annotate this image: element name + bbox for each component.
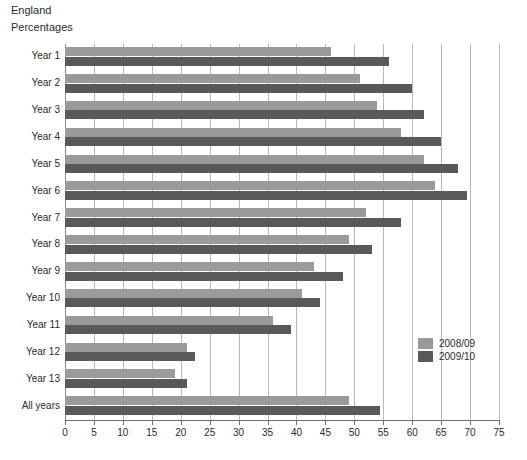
y-axis-label-year-3: Year 3 (31, 104, 60, 115)
chart-legend: 2008/092009/10 (418, 338, 506, 364)
legend-swatch-2009-10 (418, 351, 433, 362)
y-axis-label-year-1: Year 1 (31, 50, 60, 61)
x-tick-label-10: 10 (117, 427, 128, 438)
x-tick-label-25: 25 (204, 427, 215, 438)
y-axis-label-all-years: All years (22, 400, 60, 411)
y-axis-label-year-10: Year 10 (26, 292, 60, 303)
bar-year-7-2008-09 (65, 208, 366, 217)
x-tick-10 (123, 421, 124, 425)
x-tick-label-40: 40 (291, 427, 302, 438)
x-tick-0 (65, 421, 66, 425)
y-axis-label-year-13: Year 13 (26, 373, 60, 384)
x-tick-label-75: 75 (493, 427, 504, 438)
legend-label-2009-10: 2009/10 (439, 351, 475, 362)
y-axis-label-year-4: Year 4 (31, 131, 60, 142)
bar-all-years-2008-09 (65, 396, 349, 405)
x-tick-label-20: 20 (175, 427, 186, 438)
bar-year-13-2009-10 (65, 379, 187, 388)
y-axis-label-year-12: Year 12 (26, 346, 60, 357)
x-tick-35 (268, 421, 269, 425)
x-tick-25 (210, 421, 211, 425)
y-axis-label-year-8: Year 8 (31, 238, 60, 249)
chart-region-title: England (11, 4, 51, 16)
bar-year-8-2009-10 (65, 245, 372, 254)
x-tick-55 (383, 421, 384, 425)
legend-item-2008-09: 2008/09 (418, 338, 475, 349)
bar-year-9-2008-09 (65, 262, 314, 271)
x-tick-label-35: 35 (262, 427, 273, 438)
bar-year-9-2009-10 (65, 272, 343, 281)
x-tick-70 (470, 421, 471, 425)
bar-year-4-2009-10 (65, 137, 441, 146)
bar-chart: England Percentages Year 1Year 2Year 3Ye… (0, 0, 527, 460)
bar-year-4-2008-09 (65, 128, 401, 137)
x-tick-label-5: 5 (91, 427, 97, 438)
legend-swatch-2008-09 (418, 338, 433, 349)
y-axis-label-year-6: Year 6 (31, 185, 60, 196)
bar-year-3-2008-09 (65, 101, 377, 110)
bar-year-6-2008-09 (65, 181, 435, 190)
x-tick-60 (412, 421, 413, 425)
y-axis-label-year-11: Year 11 (27, 319, 60, 330)
legend-item-2009-10: 2009/10 (418, 351, 475, 362)
x-tick-label-70: 70 (465, 427, 476, 438)
x-tick-label-50: 50 (349, 427, 360, 438)
bar-year-2-2008-09 (65, 74, 360, 83)
bar-year-3-2009-10 (65, 110, 424, 119)
x-tick-label-65: 65 (436, 427, 447, 438)
bar-year-7-2009-10 (65, 218, 401, 227)
x-tick-65 (441, 421, 442, 425)
bar-year-5-2009-10 (65, 164, 458, 173)
x-tick-label-55: 55 (378, 427, 389, 438)
bar-year-6-2009-10 (65, 191, 467, 200)
x-tick-45 (325, 421, 326, 425)
x-axis-line (65, 420, 500, 421)
bar-year-8-2008-09 (65, 235, 349, 244)
bar-year-10-2008-09 (65, 289, 302, 298)
y-axis-label-year-5: Year 5 (31, 158, 60, 169)
x-tick-label-60: 60 (407, 427, 418, 438)
bar-year-13-2008-09 (65, 369, 175, 378)
x-tick-50 (354, 421, 355, 425)
y-axis-category-labels: Year 1Year 2Year 3Year 4Year 5Year 6Year… (0, 44, 60, 420)
bar-year-5-2008-09 (65, 155, 424, 164)
y-axis-label-year-9: Year 9 (31, 265, 60, 276)
bar-year-12-2009-10 (65, 352, 195, 361)
bar-year-11-2008-09 (65, 316, 273, 325)
bar-year-10-2009-10 (65, 298, 320, 307)
bar-year-1-2009-10 (65, 57, 389, 66)
x-tick-label-45: 45 (320, 427, 331, 438)
x-tick-20 (181, 421, 182, 425)
x-tick-5 (94, 421, 95, 425)
bar-all-years-2009-10 (65, 406, 380, 415)
y-axis-label-year-2: Year 2 (31, 77, 60, 88)
x-tick-30 (239, 421, 240, 425)
x-tick-label-0: 0 (62, 427, 68, 438)
x-tick-75 (499, 421, 500, 425)
bar-year-1-2008-09 (65, 47, 331, 56)
x-tick-40 (296, 421, 297, 425)
chart-units-subtitle: Percentages (11, 21, 73, 33)
x-tick-label-30: 30 (233, 427, 244, 438)
legend-label-2008-09: 2008/09 (439, 338, 475, 349)
bar-year-2-2009-10 (65, 84, 412, 93)
bar-year-12-2008-09 (65, 343, 187, 352)
y-axis-label-year-7: Year 7 (31, 212, 60, 223)
x-tick-label-15: 15 (146, 427, 157, 438)
bar-year-11-2009-10 (65, 325, 291, 334)
x-tick-15 (152, 421, 153, 425)
